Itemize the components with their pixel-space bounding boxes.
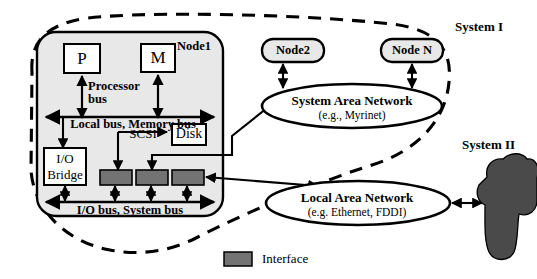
node-n-label: Node N (392, 44, 432, 57)
system-2-label: System II (462, 138, 515, 152)
figure-root: P M Node1 Processor bus Local bus, Memor… (0, 0, 537, 279)
legend-interface-label: Interface (262, 252, 308, 266)
node2-label: Node2 (276, 44, 310, 57)
local-area-network-label-line2: (e.g. Ethernet, FDDI) (308, 206, 407, 218)
system-area-network-label-line1: System Area Network (291, 94, 412, 108)
node1-title: Node1 (177, 40, 211, 53)
system-area-network-label-line2: (e.g., Myrinet) (318, 109, 385, 121)
disk-label: Disk (176, 127, 202, 142)
interface-1 (100, 170, 132, 185)
processor-label: P (77, 50, 86, 68)
system-2-blob-path (477, 154, 537, 260)
interface-swatch (224, 252, 252, 266)
interface-3 (172, 170, 204, 185)
system-1-label: System I (455, 20, 503, 34)
memory-label: M (150, 49, 165, 67)
interface-2 (136, 170, 168, 185)
io-bus-label: I/O bus, System bus (77, 204, 183, 217)
local-area-network-label-line1: Local Area Network (301, 191, 413, 205)
io-bridge-label-line1: I/O (56, 152, 73, 166)
io-bridge-label-line2: Bridge (47, 168, 82, 182)
diagram-svg (0, 0, 537, 279)
scsi-label: SCSI (129, 127, 156, 141)
processor-bus-label-line2: bus (88, 93, 107, 106)
